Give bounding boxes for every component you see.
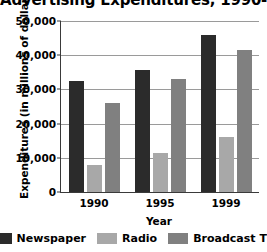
y-tick-mark [57,123,61,124]
legend-label: Broadcast TV [193,232,267,245]
legend-item-newspaper: Newspaper [0,232,86,245]
legend-item-radio: Radio [97,232,157,245]
x-tick-label-1999: 1999 [211,197,240,209]
y-tick-label: 10,000 [15,152,56,164]
y-tick-label: 20,000 [15,118,56,130]
y-tick-label: 50,000 [15,15,56,27]
bar-newspaper-1999 [201,35,216,192]
bar-radio-1999 [219,137,234,192]
y-gridline [61,55,259,56]
bar-radio-1995 [153,153,168,192]
y-tick-mark [57,55,61,56]
bar-broadcast-tv-1990 [105,103,120,192]
bar-broadcast-tv-1999 [237,50,252,192]
y-tick-label: 0 [49,186,56,198]
y-tick-mark [57,21,61,22]
y-gridline [61,21,259,22]
chart-title: Advertising Expenditures, 1990-1999 [0,0,267,9]
y-tick-mark [57,157,61,158]
plot-area: 010,00020,00030,00040,00050,000199019951… [60,21,259,193]
legend-swatch-icon [168,233,188,244]
y-tick-label: 40,000 [15,49,56,61]
y-axis-title: Expenditures (in millions of dollars) [18,19,30,199]
x-tick-label-1990: 1990 [79,197,108,209]
y-gridline [61,124,259,125]
y-tick-mark [57,192,61,193]
chart-legend: NewspaperRadioBroadcast TV [0,232,267,245]
bar-radio-1990 [87,165,102,192]
bar-broadcast-tv-1995 [171,79,186,192]
legend-label: Newspaper [17,232,86,245]
y-tick-label: 30,000 [15,83,56,95]
x-axis-title: Year [60,215,258,227]
bar-chart: Advertising Expenditures, 1990-1999 Expe… [0,0,267,252]
bar-newspaper-1995 [135,70,150,192]
y-gridline [61,89,259,90]
y-tick-mark [57,89,61,90]
legend-item-broadcast-tv: Broadcast TV [168,232,267,245]
x-tick-label-1995: 1995 [145,197,174,209]
legend-swatch-icon [97,233,117,244]
legend-swatch-icon [0,233,12,244]
legend-label: Radio [122,232,157,245]
bar-newspaper-1990 [69,81,84,192]
